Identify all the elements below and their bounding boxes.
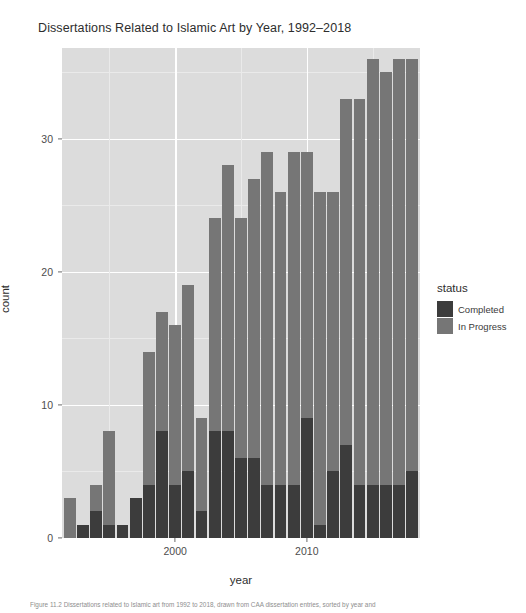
legend-key-swatch bbox=[437, 318, 453, 334]
bar-column bbox=[288, 152, 300, 538]
x-tick-label: 2000 bbox=[164, 545, 187, 557]
bar-segment-completed bbox=[301, 418, 313, 538]
bar-segment-in-progress bbox=[380, 72, 392, 485]
bar-segment-in-progress bbox=[340, 99, 352, 445]
bar-segment-in-progress bbox=[288, 152, 300, 485]
bar-segment-in-progress bbox=[393, 59, 405, 485]
x-tick-label: 2010 bbox=[295, 545, 318, 557]
bar-segment-in-progress bbox=[261, 152, 273, 485]
legend-key-swatch bbox=[437, 301, 453, 317]
x-axis-label: year bbox=[62, 574, 420, 586]
x-tick-mark bbox=[175, 538, 176, 542]
bar-column bbox=[222, 165, 234, 538]
legend-item-label: Completed bbox=[458, 304, 504, 315]
bar-column bbox=[182, 285, 194, 538]
bar-segment-completed bbox=[130, 498, 142, 538]
bar-column bbox=[103, 431, 115, 538]
bar-segment-in-progress bbox=[354, 99, 366, 485]
bar-segment-in-progress bbox=[248, 179, 260, 459]
bar-column bbox=[248, 179, 260, 539]
legend-item-label: In Progress bbox=[458, 321, 507, 332]
legend-color-box bbox=[437, 318, 453, 334]
legend: status CompletedIn Progress bbox=[437, 282, 507, 335]
bar-segment-in-progress bbox=[169, 325, 181, 485]
bar-segment-completed bbox=[275, 485, 287, 538]
bar-segment-in-progress bbox=[327, 192, 339, 472]
bar-column bbox=[196, 418, 208, 538]
bar-segment-completed bbox=[90, 511, 102, 538]
bar-segment-completed bbox=[209, 431, 221, 538]
y-tick-label: 20 bbox=[41, 266, 53, 278]
bar-column bbox=[301, 152, 313, 538]
bar-segment-completed bbox=[235, 458, 247, 538]
bar-segment-in-progress bbox=[64, 498, 76, 538]
chart-title: Dissertations Related to Islamic Art by … bbox=[38, 21, 351, 35]
bar-column bbox=[340, 99, 352, 538]
bar-segment-in-progress bbox=[143, 352, 155, 485]
legend-color-box bbox=[437, 301, 453, 317]
y-tick-mark bbox=[58, 537, 62, 538]
bar-segment-completed bbox=[367, 485, 379, 538]
bar-segment-completed bbox=[406, 471, 418, 538]
bar-segment-in-progress bbox=[90, 485, 102, 512]
bar-column bbox=[169, 325, 181, 538]
bar-column bbox=[235, 218, 247, 538]
y-tick-label: 0 bbox=[47, 532, 53, 544]
bar-column bbox=[130, 498, 142, 538]
legend-item[interactable]: In Progress bbox=[437, 318, 507, 334]
bar-segment-in-progress bbox=[209, 218, 221, 431]
y-tick-mark bbox=[58, 271, 62, 272]
bar-segment-in-progress bbox=[406, 59, 418, 472]
bar-column bbox=[314, 192, 326, 538]
legend-items: CompletedIn Progress bbox=[437, 301, 507, 334]
bar-segment-in-progress bbox=[275, 192, 287, 485]
legend-item[interactable]: Completed bbox=[437, 301, 507, 317]
bar-segment-in-progress bbox=[156, 312, 168, 432]
bar-segment-in-progress bbox=[235, 218, 247, 458]
bar-column bbox=[380, 72, 392, 538]
bar-segment-completed bbox=[222, 431, 234, 538]
chart-figure: Dissertations Related to Islamic Art by … bbox=[0, 0, 526, 613]
plot-panel bbox=[62, 48, 420, 538]
bar-column bbox=[143, 352, 155, 538]
bar-segment-completed bbox=[354, 485, 366, 538]
bar-column bbox=[64, 498, 76, 538]
y-tick-label: 30 bbox=[41, 133, 53, 145]
bar-segment-completed bbox=[288, 485, 300, 538]
bar-column bbox=[367, 59, 379, 538]
bar-segment-in-progress bbox=[301, 152, 313, 418]
y-tick-label: 10 bbox=[41, 399, 53, 411]
bar-column bbox=[156, 312, 168, 538]
bar-segment-completed bbox=[340, 445, 352, 538]
bar-column bbox=[90, 485, 102, 538]
bar-series-group bbox=[62, 48, 420, 538]
bar-segment-completed bbox=[103, 525, 115, 538]
bar-column bbox=[117, 525, 129, 538]
bar-segment-completed bbox=[327, 471, 339, 538]
y-axis-label: count bbox=[0, 285, 11, 313]
bar-segment-completed bbox=[248, 458, 260, 538]
bar-column bbox=[209, 218, 221, 538]
bar-segment-completed bbox=[169, 485, 181, 538]
bar-segment-in-progress bbox=[314, 192, 326, 525]
bar-segment-completed bbox=[196, 511, 208, 538]
bar-column bbox=[354, 99, 366, 538]
y-tick-mark bbox=[58, 404, 62, 405]
bar-segment-in-progress bbox=[196, 418, 208, 511]
y-tick-mark bbox=[58, 138, 62, 139]
bar-segment-in-progress bbox=[367, 59, 379, 485]
bar-segment-completed bbox=[156, 431, 168, 538]
bar-segment-completed bbox=[261, 485, 273, 538]
bar-column bbox=[393, 59, 405, 538]
bar-column bbox=[406, 59, 418, 538]
bar-segment-completed bbox=[314, 525, 326, 538]
bar-segment-in-progress bbox=[103, 431, 115, 524]
bar-segment-completed bbox=[77, 525, 89, 538]
bar-segment-completed bbox=[393, 485, 405, 538]
bar-column bbox=[261, 205, 273, 538]
bar-column bbox=[327, 192, 339, 538]
legend-title: status bbox=[437, 282, 507, 294]
bar-segment-in-progress bbox=[222, 165, 234, 431]
bar-segment-completed bbox=[143, 485, 155, 538]
x-tick-mark bbox=[306, 538, 307, 542]
